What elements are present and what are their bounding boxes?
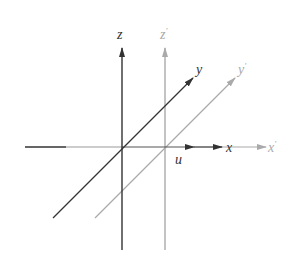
x-prime-axis-label: x′ (267, 139, 277, 155)
translation-label: u (175, 152, 182, 167)
y-axis-label: y (194, 62, 203, 77)
original-frame (25, 48, 222, 250)
translated-frame (95, 48, 266, 250)
x-axis-label: x (225, 140, 233, 155)
coordinate-translation-diagram: z z′ y y′ x x′ u (0, 0, 297, 268)
y-prime-axis-label: y′ (236, 61, 247, 77)
z-axis-label: z (116, 27, 123, 42)
z-prime-axis-label: z′ (159, 26, 168, 42)
y-axis (53, 78, 193, 218)
